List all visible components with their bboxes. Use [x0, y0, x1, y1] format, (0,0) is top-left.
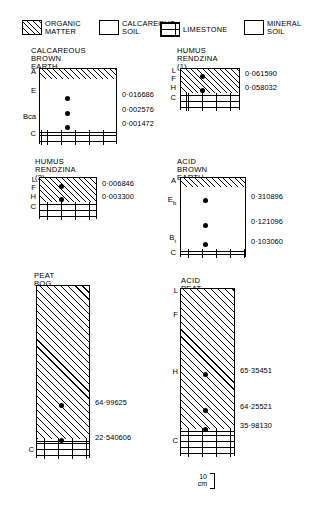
horizon-label: A [160, 177, 176, 185]
organic-matter-swatch-icon [22, 20, 42, 35]
horizon-label: C [160, 94, 176, 102]
scale-bracket-icon [210, 473, 215, 489]
sample-point [203, 427, 208, 432]
horizon-label: F [20, 184, 36, 192]
legend-label: LIMESTONE [183, 26, 227, 34]
horizon-label: F [160, 75, 176, 83]
measurement-value: 0·121096 [251, 218, 283, 226]
measurement-value: 0·001472 [122, 120, 154, 128]
measurement-value: 0·006846 [102, 180, 134, 188]
measurement-value: 0·103060 [251, 238, 283, 246]
measurement-value: 0·002576 [122, 106, 154, 114]
horizon-label: H [160, 84, 176, 92]
layer-limestone [181, 93, 239, 111]
horizon-label: C [162, 437, 178, 445]
measurement-value: 0·016686 [122, 91, 154, 99]
horizon-label-bt: Bt [158, 234, 176, 245]
profile-column [36, 285, 90, 458]
scale-label: 10 cm [185, 473, 207, 488]
horizon-label: C [14, 130, 36, 138]
measurement-value: 0·310896 [251, 193, 283, 201]
layer-organic [181, 178, 245, 187]
layer-limestone [181, 429, 234, 457]
layer-organic [181, 69, 239, 93]
sample-point [200, 88, 205, 93]
horizon-label: C [20, 203, 36, 211]
sample-point [203, 223, 208, 228]
profile-column [180, 177, 246, 257]
layer-calcareous [181, 241, 245, 249]
sample-point [59, 438, 64, 443]
legend: ORGANIC MATTER CALCAREOUS SOIL LIMESTONE… [0, 18, 312, 42]
horizon-label: F [162, 311, 178, 319]
legend-item-limestone: LIMESTONE [160, 22, 227, 37]
measurement-value: 0·061590 [245, 70, 277, 78]
horizon-label: C [18, 446, 34, 454]
horizon-label: A [14, 68, 36, 76]
legend-label: ORGANIC MATTER [45, 20, 81, 35]
sample-point [203, 408, 208, 413]
measurement-value: 65·35451 [240, 367, 272, 375]
sample-point [203, 372, 208, 377]
horizon-label: Bca [9, 113, 36, 121]
layer-organic [37, 286, 89, 439]
legend-item-organic-matter: ORGANIC MATTER [22, 20, 81, 35]
layer-organic [40, 178, 96, 202]
profile-column [180, 68, 240, 110]
sample-point [200, 74, 205, 79]
horizon-label: H [20, 193, 36, 201]
measurement-value: 0·003300 [102, 193, 134, 201]
sample-point [203, 198, 208, 203]
measurement-value: 64·99625 [95, 399, 127, 407]
sample-point [59, 197, 64, 202]
sample-point [65, 96, 70, 101]
profile-column [39, 177, 97, 219]
layer-limestone [40, 202, 96, 220]
horizon-label: L [162, 287, 178, 295]
sample-point [203, 242, 208, 247]
sample-point [59, 403, 64, 408]
layer-limestone [40, 130, 116, 145]
layer-calcareous [40, 102, 116, 130]
layer-organic [40, 69, 116, 79]
profile-column [39, 68, 117, 144]
horizon-label: E [14, 87, 36, 95]
measurement-value: 35·98130 [240, 422, 272, 430]
sample-point [59, 184, 64, 189]
horizon-label-eb: Eb [158, 196, 176, 207]
layer-mineral [181, 187, 245, 241]
profile-column [180, 288, 235, 456]
sample-point [65, 125, 70, 130]
limestone-swatch-icon [160, 22, 180, 37]
mineral-soil-swatch-icon [244, 20, 264, 35]
measurement-value: 22·540606 [95, 434, 131, 442]
horizon-label: C [160, 249, 176, 257]
layer-mineral [40, 79, 116, 102]
layer-limestone [181, 249, 245, 258]
measurement-value: 64·25521 [240, 403, 272, 411]
legend-label: MINERAL SOIL [267, 20, 301, 35]
legend-item-mineral-soil: MINERAL SOIL [244, 20, 301, 35]
horizon-label: H [162, 368, 178, 376]
measurement-value: 0·058032 [245, 84, 277, 92]
calcareous-soil-swatch-icon [99, 20, 119, 35]
sample-point [65, 111, 70, 116]
